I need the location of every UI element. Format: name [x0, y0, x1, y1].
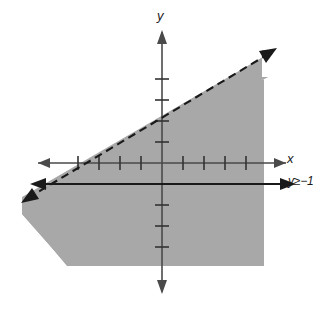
inequality-label: y≥−1 — [288, 174, 313, 188]
y-axis-label: y — [157, 8, 164, 23]
graph-figure: y x y≥−1 — [0, 0, 331, 312]
x-axis-label: x — [287, 151, 294, 166]
coordinate-plane-svg — [0, 0, 331, 312]
region-precise — [22, 52, 272, 266]
